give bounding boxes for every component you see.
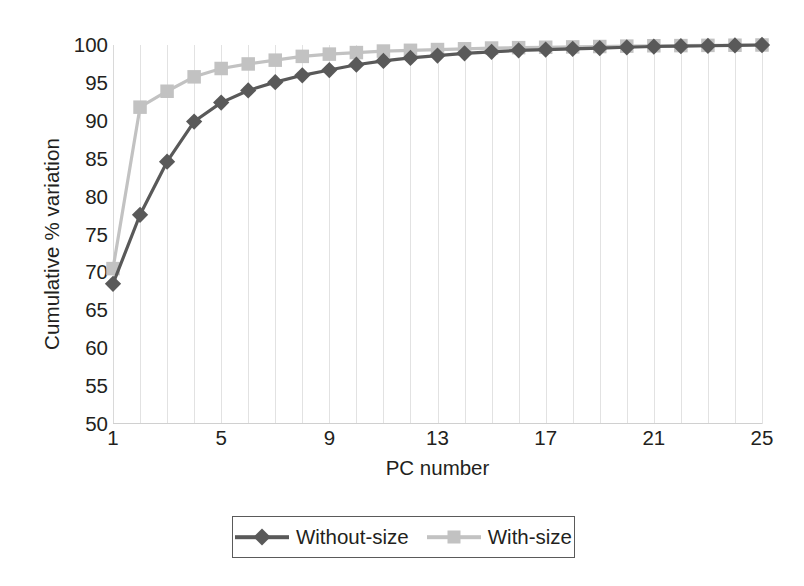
data-series-layer (113, 45, 762, 424)
data-point-marker (240, 82, 256, 98)
legend-swatch-diamond-icon (235, 527, 289, 547)
data-point-marker (296, 50, 310, 64)
y-axis-tick-label: 65 (52, 300, 108, 321)
data-point-marker (321, 62, 337, 78)
data-point-marker (133, 100, 147, 114)
y-axis-tick-label: 60 (52, 338, 108, 359)
legend-marker-diamond-icon (253, 529, 270, 546)
legend-swatch-square-icon (427, 527, 481, 547)
y-axis-tick-label: 55 (52, 376, 108, 397)
x-axis-tick-label: 1 (107, 428, 118, 449)
x-axis-tick-label: 25 (751, 428, 774, 449)
data-point-marker (187, 70, 201, 84)
legend-marker-square-icon (447, 531, 460, 544)
legend-entry: With-size (427, 525, 572, 549)
series-with-size (106, 38, 769, 275)
series-line (113, 45, 762, 269)
x-axis-tick-label: 17 (534, 428, 557, 449)
x-axis-title: PC number (113, 456, 762, 480)
y-axis-tick-label: 100 (52, 35, 108, 56)
data-point-marker (241, 57, 255, 70)
y-axis-tick-label: 75 (52, 224, 108, 245)
x-axis-tick-label: 13 (426, 428, 449, 449)
chart-figure: Cumulative % variation 50556065707580859… (0, 0, 804, 586)
data-point-marker (294, 67, 310, 83)
plot-area (113, 45, 762, 424)
gridline (762, 45, 763, 424)
x-axis-tick-label: 21 (642, 428, 665, 449)
chart-legend: Without-sizeWith-size (232, 516, 575, 558)
y-axis-tick-label: 50 (52, 414, 108, 435)
legend-label: Without-size (296, 525, 409, 549)
x-axis-tick-label: 5 (215, 428, 226, 449)
series-line (113, 45, 762, 284)
data-point-marker (323, 47, 337, 61)
y-axis-tick-label: 70 (52, 262, 108, 283)
data-point-marker (160, 84, 174, 98)
x-axis-tick-label: 9 (324, 428, 335, 449)
y-axis-tick-label: 95 (52, 73, 108, 94)
data-point-marker (267, 74, 283, 90)
y-axis-tick-label: 90 (52, 111, 108, 132)
y-axis-tick-labels: 50556065707580859095100 (52, 30, 108, 430)
x-axis-tick-labels: 15913172125 (113, 428, 762, 458)
data-point-marker (132, 207, 148, 223)
legend-label: With-size (488, 525, 572, 549)
data-point-marker (269, 53, 283, 67)
legend-entry: Without-size (235, 525, 409, 549)
y-axis-tick-label: 80 (52, 186, 108, 207)
data-point-marker (214, 62, 228, 76)
y-axis-tick-label: 85 (52, 148, 108, 169)
